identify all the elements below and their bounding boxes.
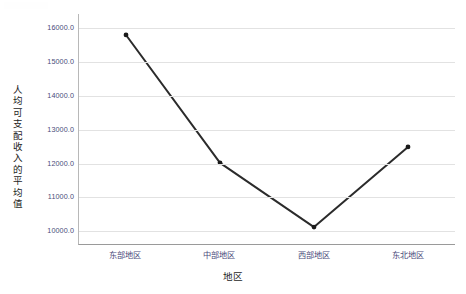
data-point-marker	[406, 145, 411, 150]
gridline	[79, 197, 455, 198]
x-axis-tick-label: 东北地区	[392, 251, 424, 261]
y-axis-tick-label: 10000.0	[18, 227, 74, 235]
top-left-artifact	[4, 2, 48, 9]
x-axis-tick-label: 中部地区	[203, 251, 235, 261]
data-point-marker	[312, 225, 317, 230]
x-axis-tick-label: 西部地区	[298, 251, 330, 261]
gridline	[79, 28, 455, 29]
x-axis-tick-labels: 东部地区中部地区西部地区东北地区	[78, 251, 455, 265]
data-point-marker	[124, 33, 129, 38]
y-axis-tick-label: 14000.0	[18, 92, 74, 100]
y-axis-tick-label: 11000.0	[18, 193, 74, 201]
gridline	[79, 62, 455, 63]
y-axis-tick-label: 16000.0	[18, 24, 74, 32]
x-axis-tick-label: 东部地区	[109, 251, 141, 261]
y-axis-tick-label: 12000.0	[18, 160, 74, 168]
plot-area	[78, 14, 455, 245]
x-axis-title: 地区	[0, 271, 466, 283]
gridline	[79, 96, 455, 97]
y-axis-tick-label: 13000.0	[18, 126, 74, 134]
y-axis-tick-label: 15000.0	[18, 58, 74, 66]
gridline	[79, 164, 455, 165]
gridline	[79, 231, 455, 232]
y-axis-tick-labels: 16000.015000.014000.013000.012000.011000…	[14, 14, 74, 245]
gridline	[79, 130, 455, 131]
line-chart: 人均可支配收入的平均值 16000.015000.014000.013000.0…	[0, 0, 466, 294]
